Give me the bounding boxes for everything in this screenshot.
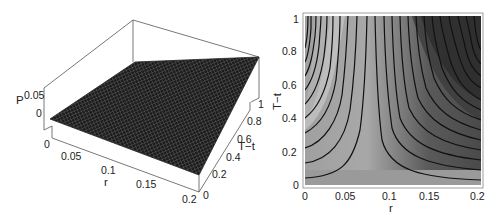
x-tick: 0.1	[101, 164, 116, 176]
y-tick: 0.2	[282, 146, 297, 158]
x-tick: 0.05	[61, 150, 82, 162]
y-tick: 1	[293, 13, 299, 25]
x-tick: 0.15	[136, 178, 157, 190]
y-tick: 0	[293, 179, 299, 191]
y-axis-label: T−t	[271, 92, 283, 110]
surface-plot: P 0.05 0 0 0.05 0.1 0.15 0.2 r 0 0.2 0.4…	[16, 20, 264, 205]
x-tick: 0.2	[470, 190, 485, 202]
y-tick: 1	[258, 98, 264, 110]
y-tick: 0.4	[226, 151, 241, 163]
figure: P 0.05 0 0 0.05 0.1 0.15 0.2 r 0 0.2 0.4…	[0, 0, 501, 216]
z-tick: 0	[36, 107, 42, 119]
y-tick: 0.6	[282, 79, 297, 91]
x-axis-label: r	[389, 202, 393, 214]
x-tick-origin: 0	[44, 138, 50, 150]
x-tick: 0.1	[382, 190, 397, 202]
contour-plot: 1 0.8 0.6 0.4 0.2 0 T−t 0 0.05 0.1 0.15 …	[271, 13, 485, 214]
y-tick: 0	[203, 189, 209, 201]
z-axis-label: P	[16, 94, 24, 106]
x-tick: 0.2	[182, 193, 197, 205]
y-tick: 0.8	[247, 115, 262, 127]
y-tick: 0.2	[212, 168, 227, 180]
x-axis-label: r	[104, 176, 108, 188]
y-axis-label: T−t	[238, 140, 256, 152]
x-tick: 0	[302, 190, 308, 202]
y-tick: 0.4	[282, 112, 297, 124]
z-tick: 0.05	[24, 89, 45, 101]
y-tick: 0.8	[282, 45, 297, 57]
x-tick: 0.05	[335, 190, 356, 202]
x-tick: 0.15	[419, 190, 440, 202]
